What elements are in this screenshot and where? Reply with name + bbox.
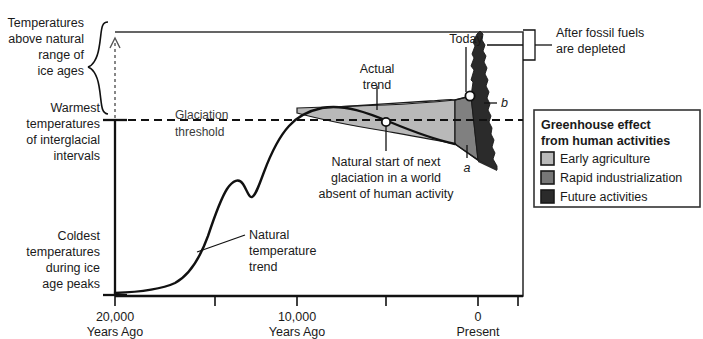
natural-start-line-0: Natural start of next xyxy=(331,155,441,169)
x-tick-label-0: 0 Present xyxy=(456,310,500,339)
actual-trend-line-0: Actual xyxy=(360,62,395,76)
label-coldest-line-1: temperatures xyxy=(26,245,100,259)
label-warmest-temperatures: Warmest temperatures of interglacial int… xyxy=(26,101,100,163)
annotation-today: Today xyxy=(449,32,483,46)
x-tick-0-line-1: Present xyxy=(456,325,500,339)
figure-page: Temperatures above natural range of ice … xyxy=(0,0,703,339)
marker-today xyxy=(465,91,474,100)
annotation-point-b: b xyxy=(501,96,508,110)
label-temperatures-above-range: Temperatures above natural range of ice … xyxy=(8,16,85,78)
point-b-label: b xyxy=(501,96,508,110)
legend-title-line-0: Greenhouse effect xyxy=(541,118,652,132)
natural-start-line-1: glaciation in a world xyxy=(331,171,441,185)
x-tick-0-line-0: 0 xyxy=(475,310,482,324)
annotation-point-a: a xyxy=(464,161,471,175)
label-coldest-temperatures: Coldest temperatures during ice age peak… xyxy=(26,229,100,291)
climate-temperature-figure: Temperatures above natural range of ice … xyxy=(0,0,703,339)
label-above-line-3: ice ages xyxy=(37,64,84,78)
legend: Greenhouse effect from human activities … xyxy=(534,110,700,207)
annotation-natural-temperature-trend: Natural temperature trend xyxy=(249,228,316,274)
legend-label-future-activities: Future activities xyxy=(560,190,648,204)
label-coldest-line-2: during ice xyxy=(46,261,100,275)
legend-label-early-agriculture: Early agriculture xyxy=(560,152,650,166)
x-tick-10000-line-0: 10,000 xyxy=(278,310,316,324)
x-tick-label-10000: 10,000 Years Ago xyxy=(269,310,326,339)
y-axis xyxy=(103,38,127,296)
legend-label-rapid-industrialization: Rapid industrialization xyxy=(560,171,682,185)
after-fossil-line-0: After fossil fuels xyxy=(556,26,644,40)
label-above-line-0: Temperatures xyxy=(8,16,84,30)
marker-natural-start-of-glaciation xyxy=(382,118,390,126)
x-axis xyxy=(115,296,523,306)
label-warmest-line-1: temperatures xyxy=(26,117,100,131)
after-fossil-line-1: are depleted xyxy=(556,42,626,56)
point-a-label: a xyxy=(464,161,471,175)
label-above-line-1: above natural xyxy=(8,32,84,46)
annotation-natural-start-of-glaciation: Natural start of next glaciation in a wo… xyxy=(319,155,455,201)
annotation-actual-trend: Actual trend xyxy=(360,62,395,92)
legend-swatch-rapid-industrialization xyxy=(541,171,554,184)
label-warmest-line-3: intervals xyxy=(53,149,100,163)
x-tick-20000-line-1: Years Ago xyxy=(87,325,144,339)
x-tick-label-20000: 20,000 Years Ago xyxy=(87,310,144,339)
legend-title-line-1: from human activities xyxy=(541,134,670,148)
annotation-after-fossil-fuels: After fossil fuels are depleted xyxy=(556,26,644,56)
label-coldest-line-3: age peaks xyxy=(42,277,100,291)
legend-swatch-future-activities xyxy=(541,190,554,203)
natural-trend-line-0: Natural xyxy=(249,228,289,242)
today-label: Today xyxy=(449,32,483,46)
label-coldest-line-0: Coldest xyxy=(58,229,101,243)
label-warmest-line-2: of interglacial xyxy=(26,133,100,147)
annotation-glaciation-threshold: Glaciation threshold xyxy=(175,108,228,139)
plot-frame xyxy=(115,32,523,296)
natural-trend-line-2: trend xyxy=(249,260,278,274)
label-warmest-line-0: Warmest xyxy=(50,101,100,115)
legend-item-rapid-industrialization[interactable]: Rapid industrialization xyxy=(541,171,682,185)
actual-trend-line-1: trend xyxy=(363,78,392,92)
natural-start-line-2: absent of human activity xyxy=(319,187,455,201)
x-tick-10000-line-1: Years Ago xyxy=(269,325,326,339)
label-above-line-2: range of xyxy=(38,48,84,62)
x-tick-20000-line-0: 20,000 xyxy=(96,310,134,324)
glaciation-threshold-line-1: threshold xyxy=(175,125,224,139)
glaciation-threshold-line-0: Glaciation xyxy=(175,108,228,122)
legend-swatch-early-agriculture xyxy=(541,152,554,165)
natural-trend-line-1: temperature xyxy=(249,244,316,258)
